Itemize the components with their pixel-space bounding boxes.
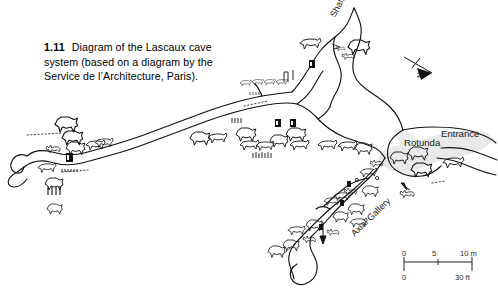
compass-north-label: N xyxy=(415,72,425,78)
figure-number: 1.11 xyxy=(44,41,65,53)
map-label-rotunda: Rotunda xyxy=(404,137,440,148)
figure-lascaux-cave-diagram: 1.11Diagram of the Lascaux cave system (… xyxy=(0,0,498,294)
dotted-path-markings xyxy=(27,101,446,252)
scale-metric-5-label: 5 xyxy=(432,249,436,258)
scale-imperial-0-label: 0 xyxy=(402,273,406,282)
figure-caption: 1.11Diagram of the Lascaux cave system (… xyxy=(44,40,244,84)
map-label-entrance: Entrance xyxy=(441,128,479,139)
figure-caption-text: Diagram of the Lascaux cave system (base… xyxy=(44,41,213,82)
scale-bar xyxy=(404,257,472,271)
scale-imperial-30-label: 30 ft xyxy=(455,273,470,282)
rotunda-arrow xyxy=(401,183,410,190)
scale-metric-10-label: 10 m xyxy=(460,249,477,258)
scale-metric-0-label: 0 xyxy=(402,249,406,258)
